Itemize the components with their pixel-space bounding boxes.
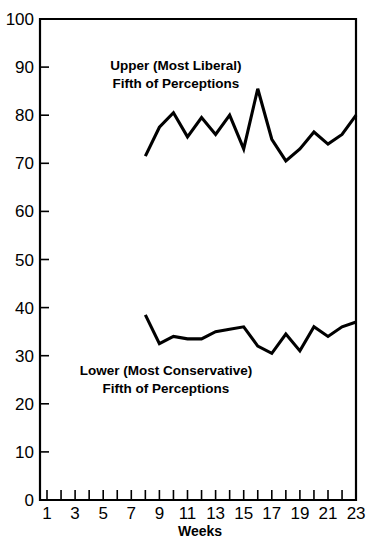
- y-axis-tick-label: 40: [15, 299, 34, 318]
- line-chart: 0102030405060708090100 13579111315171921…: [0, 0, 371, 541]
- y-axis-tick-label: 100: [6, 10, 34, 29]
- y-axis-tick-label: 60: [15, 202, 34, 221]
- y-axis-tick-label: 20: [15, 395, 34, 414]
- plot-border: [40, 19, 356, 500]
- y-axis-tick-label: 70: [15, 154, 34, 173]
- x-axis-tick-label: 9: [155, 504, 164, 523]
- x-axis-tick-label: 21: [319, 504, 338, 523]
- x-axis-tick-label: 19: [290, 504, 309, 523]
- y-axis-tick-label: 0: [25, 491, 34, 510]
- x-axis-tick-label: 15: [234, 504, 253, 523]
- plot-frame: [40, 19, 356, 500]
- y-axis-tick-label: 90: [15, 58, 34, 77]
- x-axis-title: Weeks: [178, 523, 222, 539]
- x-axis-tick-label: 1: [42, 504, 51, 523]
- x-axis-tick-label: 23: [347, 504, 366, 523]
- data-series-lines: [145, 89, 356, 354]
- upper-series-annotation-line2: Fifth of Perceptions: [113, 76, 240, 91]
- lower-series-line: [145, 315, 356, 353]
- x-axis-tick-labels: 1357911131517192123: [42, 504, 365, 523]
- chart-figure: 0102030405060708090100 13579111315171921…: [0, 0, 371, 541]
- x-axis-tick-label: 17: [262, 504, 281, 523]
- y-axis-tick-label: 50: [15, 251, 34, 270]
- y-axis-ticks: [40, 67, 49, 452]
- x-axis-ticks: [47, 490, 356, 500]
- x-axis-tick-label: 7: [127, 504, 136, 523]
- y-axis-tick-label: 80: [15, 106, 34, 125]
- y-axis-tick-label: 30: [15, 347, 34, 366]
- y-axis-tick-labels: 0102030405060708090100: [6, 10, 34, 510]
- lower-series-annotation-line1: Lower (Most Conservative): [80, 363, 253, 378]
- x-axis-tick-label: 11: [179, 504, 197, 523]
- upper-series-line: [145, 89, 356, 161]
- x-axis-tick-label: 13: [206, 504, 225, 523]
- lower-series-annotation-line2: Fifth of Perceptions: [103, 381, 230, 396]
- upper-series-annotation-line1: Upper (Most Liberal): [110, 58, 241, 73]
- x-axis-tick-label: 3: [70, 504, 79, 523]
- x-axis-tick-label: 5: [98, 504, 107, 523]
- y-axis-tick-label: 10: [15, 443, 34, 462]
